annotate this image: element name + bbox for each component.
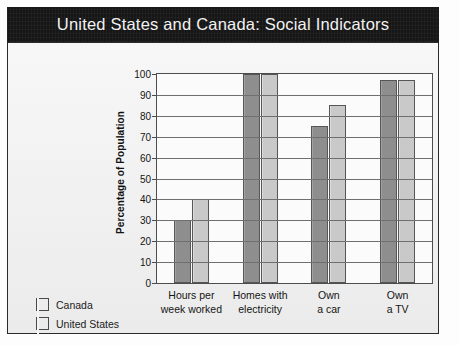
y-tick-mark (152, 158, 156, 159)
y-tick-label: 30 (113, 215, 156, 226)
y-tick-label: 10 (113, 257, 156, 268)
gridline (157, 158, 432, 159)
y-tick-label: 0 (113, 278, 156, 289)
plot-area (156, 73, 433, 284)
y-tick-mark (152, 283, 156, 284)
bar-united-states-3 (398, 80, 415, 283)
y-tick-mark (152, 116, 156, 117)
bar-canada-3 (380, 80, 397, 283)
x-axis-label-line: Own (387, 289, 409, 301)
y-tick-label: 60 (113, 152, 156, 163)
chart-screenshot: United States and Canada: Social Indicat… (0, 0, 459, 345)
bar-canada-0 (174, 220, 191, 283)
y-tick-mark (152, 220, 156, 221)
x-axis-label-2: Owna car (317, 288, 340, 316)
y-tick-mark (152, 199, 156, 200)
legend-swatch-united-states (36, 317, 49, 330)
gridline (157, 95, 432, 96)
x-axis-label-line: a TV (387, 302, 409, 316)
legend-label-canada: Canada (56, 299, 93, 311)
gridline (157, 262, 432, 263)
y-tick-label: 100 (113, 69, 156, 80)
bar-canada-2 (311, 126, 328, 283)
chart-area: Percentage of Population 010203040506070… (113, 66, 438, 331)
x-axis-label-line: week worked (161, 302, 222, 316)
y-tick-label: 70 (113, 131, 156, 142)
legend-swatch-canada (36, 298, 49, 311)
figure-frame: Canada United States Percentage of Popul… (7, 42, 439, 334)
legend-label-united-states: United States (56, 318, 119, 330)
y-tick-mark (152, 74, 156, 75)
gridline (157, 220, 432, 221)
gridline (157, 116, 432, 117)
y-tick-label: 50 (113, 173, 156, 184)
y-tick-mark (152, 262, 156, 263)
y-tick-label: 40 (113, 194, 156, 205)
page-title: United States and Canada: Social Indicat… (57, 15, 389, 34)
y-tick-mark (152, 179, 156, 180)
y-tick-label: 20 (113, 236, 156, 247)
legend-swatch-fill-canada (37, 298, 39, 317)
legend-swatch-fill-united-states (37, 317, 39, 336)
x-axis-label-line: Own (318, 289, 340, 301)
x-axis-label-1: Homes withelectricity (233, 288, 288, 316)
gridline (157, 137, 432, 138)
x-axis-label-line: Hours per (168, 289, 214, 301)
x-axis-label-line: electricity (233, 302, 288, 316)
gridline (157, 179, 432, 180)
y-tick-mark (152, 95, 156, 96)
y-tick-mark (152, 241, 156, 242)
y-tick-label: 80 (113, 110, 156, 121)
bar-united-states-2 (329, 105, 346, 283)
x-axis-label-3: Owna TV (387, 288, 409, 316)
chart-title-banner: United States and Canada: Social Indicat… (7, 7, 439, 42)
x-axis-label-line: Homes with (233, 289, 288, 301)
y-tick-label: 90 (113, 89, 156, 100)
x-axis-label-0: Hours perweek worked (161, 288, 222, 316)
gridline (157, 199, 432, 200)
gridline (157, 241, 432, 242)
x-axis-label-line: a car (317, 302, 340, 316)
y-tick-mark (152, 137, 156, 138)
